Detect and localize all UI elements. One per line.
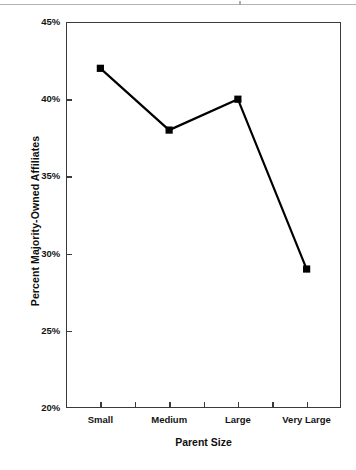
x-tick-label-very-large: Very Large [262, 414, 352, 425]
series-line-majority-owned [100, 68, 306, 269]
x-axis-title: Parent Size [66, 436, 341, 448]
y-tick-label: 20% [20, 403, 60, 413]
data-series-layer [66, 22, 341, 408]
y-axis-title: Percent Majority-Owned Affiliates [29, 91, 41, 351]
data-point-marker [303, 265, 310, 272]
series-markers-group [97, 65, 310, 273]
data-point-marker [234, 96, 241, 103]
data-point-marker [166, 126, 173, 133]
line-chart-figure: 45% 40% 35% 30% 25% 20% Percent Majority… [0, 0, 356, 470]
data-point-marker [97, 65, 104, 72]
y-tick-label: 45% [20, 17, 60, 27]
